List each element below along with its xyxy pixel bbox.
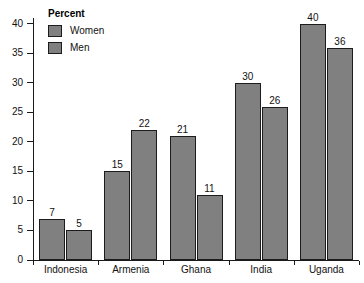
bar-ghana-women[interactable]: 21 [170, 136, 196, 260]
bar-value-label: 21 [177, 125, 188, 135]
chart-legend: Percent Women Men [48, 9, 104, 59]
x-axis-line [33, 260, 359, 261]
bar-indonesia-men[interactable]: 5 [66, 230, 92, 260]
x-tick-3 [294, 261, 295, 265]
legend-title: Percent [48, 9, 104, 19]
x-tick-1 [163, 261, 164, 265]
bar-uganda-men[interactable]: 36 [327, 48, 353, 260]
legend-swatch-women [48, 25, 62, 37]
x-tick-start [33, 261, 34, 265]
x-tick-2 [229, 261, 230, 265]
x-tick-4 [359, 261, 360, 265]
y-tick-15: 15 [27, 171, 33, 172]
legend-item-women[interactable]: Women [48, 25, 104, 37]
y-tick-label-25: 25 [12, 107, 23, 117]
y-tick-35: 35 [27, 53, 33, 54]
category-label-armenia: Armenia [112, 265, 149, 275]
bar-value-label: 30 [242, 72, 253, 82]
legend-label-men: Men [70, 43, 89, 53]
bar-value-label: 36 [334, 37, 345, 47]
legend-label-women: Women [70, 26, 104, 36]
bar-value-label: 7 [49, 208, 55, 218]
y-tick-label-0: 0 [17, 255, 23, 265]
y-tick-label-40: 40 [12, 19, 23, 29]
y-tick-label-20: 20 [12, 137, 23, 147]
category-label-indonesia: Indonesia [44, 265, 87, 275]
y-tick-30: 30 [27, 82, 33, 83]
bar-uganda-women[interactable]: 40 [300, 24, 326, 260]
bar-value-label: 22 [139, 119, 150, 129]
bar-india-women[interactable]: 30 [235, 83, 261, 260]
y-tick-25: 25 [27, 112, 33, 113]
bar-value-label: 15 [112, 160, 123, 170]
legend-swatch-men [48, 42, 62, 54]
bar-armenia-women[interactable]: 15 [104, 171, 130, 260]
y-tick-10: 10 [27, 200, 33, 201]
bar-ghana-men[interactable]: 11 [197, 195, 223, 260]
y-tick-20: 20 [27, 141, 33, 142]
bar-value-label: 26 [269, 96, 280, 106]
bar-value-label: 40 [307, 13, 318, 23]
x-tick-0 [98, 261, 99, 265]
y-tick-40: 40 [27, 23, 33, 24]
category-label-ghana: Ghana [181, 265, 211, 275]
bar-indonesia-women[interactable]: 7 [39, 219, 65, 260]
bar-armenia-men[interactable]: 22 [131, 130, 157, 260]
bar-value-label: 5 [76, 219, 82, 229]
y-axis-line [33, 18, 34, 261]
bar-india-men[interactable]: 26 [262, 107, 288, 260]
y-tick-label-5: 5 [17, 225, 23, 235]
category-label-uganda: Uganda [309, 265, 344, 275]
legend-item-men[interactable]: Men [48, 42, 104, 54]
y-tick-label-15: 15 [12, 166, 23, 176]
bar-value-label: 11 [204, 184, 214, 194]
category-label-india: India [250, 265, 272, 275]
y-tick-label-35: 35 [12, 48, 23, 58]
bar-chart: 0510152025303540 751522211130264036 Indo… [0, 0, 364, 283]
y-tick-label-30: 30 [12, 78, 23, 88]
y-tick-label-10: 10 [12, 196, 23, 206]
y-tick-5: 5 [27, 230, 33, 231]
